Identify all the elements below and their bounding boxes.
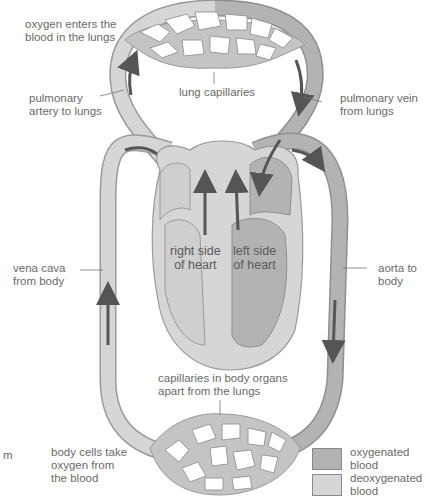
label-body-capillaries: capillaries in body organs apart from th… — [158, 372, 288, 398]
body-capillaries-net — [150, 414, 300, 495]
legend-swatch-oxygenated — [312, 448, 342, 470]
label-lung-capillaries: lung capillaries — [179, 86, 255, 99]
label-right-side-heart: right side of heart — [170, 244, 221, 272]
legend-label-deoxygenated: deoxygenated blood — [350, 472, 422, 498]
label-oxygen-enters: oxygen enters the blood in the lungs — [25, 18, 116, 44]
legend-swatch-deoxygenated — [312, 474, 342, 496]
label-pulmonary-vein: pulmonary vein from lungs — [340, 92, 418, 118]
label-cut-fragment: m — [3, 449, 13, 462]
label-body-cells: body cells take oxygen from the blood — [51, 446, 127, 485]
label-left-side-heart: left side of heart — [233, 244, 276, 272]
legend-label-oxygenated: oxygenated blood — [350, 446, 409, 472]
label-aorta: aorta to body — [378, 262, 417, 288]
label-vena-cava: vena cava from body — [13, 262, 65, 288]
label-pulmonary-artery: pulmonary artery to lungs — [29, 92, 102, 118]
